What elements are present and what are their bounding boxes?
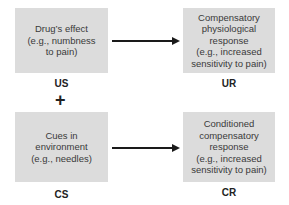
cs-to-cr-arrow xyxy=(112,147,178,149)
us-box: Drug’s effect (e.g., numbness to pain) xyxy=(15,8,108,73)
ur-text: Compensatory physiological response (e.g… xyxy=(191,12,267,70)
ur-label: UR xyxy=(183,78,275,89)
us-label: US xyxy=(15,78,108,89)
us-to-ur-arrow xyxy=(112,40,178,42)
us-text: Drug’s effect (e.g., numbness to pain) xyxy=(27,23,95,58)
cr-box: Conditioned compensatory response (e.g.,… xyxy=(183,112,275,182)
cs-text: Cues in environment (e.g., needles) xyxy=(31,130,92,165)
cs-box: Cues in environment (e.g., needles) xyxy=(15,112,108,182)
cs-label: CS xyxy=(15,189,108,200)
cr-text: Conditioned compensatory response (e.g.,… xyxy=(191,118,267,176)
plus-connector: + xyxy=(55,91,66,109)
ur-box: Compensatory physiological response (e.g… xyxy=(183,8,275,73)
cr-label: CR xyxy=(183,187,275,198)
